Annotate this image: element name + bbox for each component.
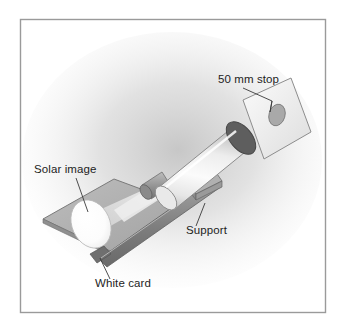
label-support: Support bbox=[186, 224, 228, 236]
background-shadow bbox=[22, 32, 322, 288]
label-white-card: White card bbox=[95, 277, 151, 289]
figure-container: 50 mm stop Solar image Support White car… bbox=[0, 0, 348, 329]
label-50mm-stop: 50 mm stop bbox=[218, 73, 279, 85]
label-solar-image: Solar image bbox=[34, 163, 96, 175]
solar-projection-diagram: 50 mm stop Solar image Support White car… bbox=[0, 0, 348, 329]
